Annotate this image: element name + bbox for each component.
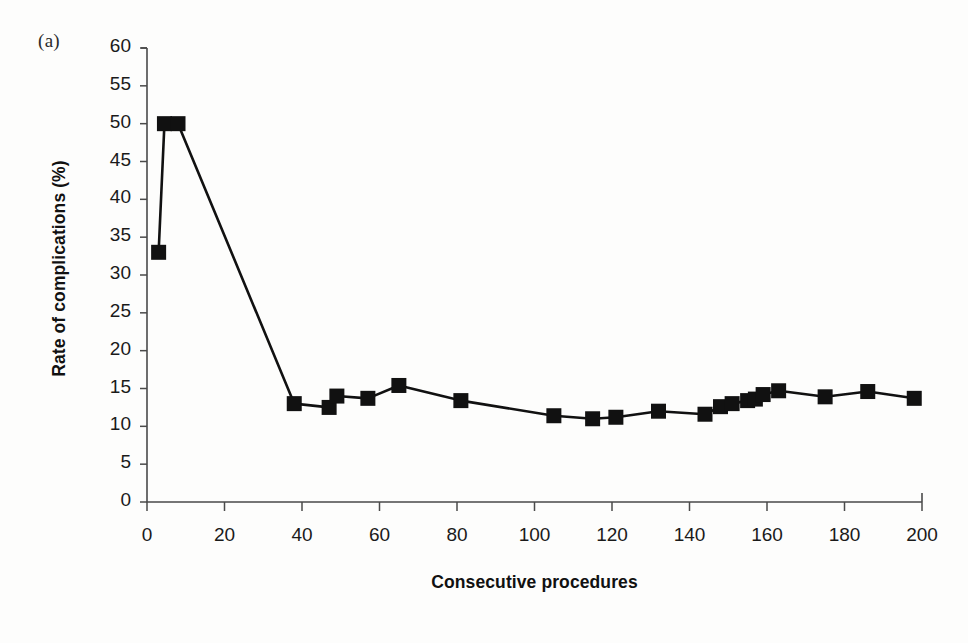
data-point-marker xyxy=(771,383,786,398)
figure-panel: (a) Rate of complications (%) Consecutiv… xyxy=(0,0,968,643)
y-tick-label: 40 xyxy=(85,186,131,208)
axis-lines xyxy=(141,48,922,502)
x-tick-label: 0 xyxy=(117,524,177,546)
y-tick-label: 5 xyxy=(85,451,131,473)
data-point-marker xyxy=(907,391,922,406)
x-tick-label: 140 xyxy=(660,524,720,546)
y-tick-label: 0 xyxy=(85,489,131,511)
chart-plot-area xyxy=(0,0,968,643)
data-point-marker xyxy=(818,389,833,404)
axis-spine xyxy=(147,48,922,502)
y-tick-label: 30 xyxy=(85,262,131,284)
y-tick-label: 55 xyxy=(85,73,131,95)
data-point-marker xyxy=(756,387,771,402)
data-point-marker xyxy=(391,378,406,393)
data-point-marker xyxy=(585,411,600,426)
y-tick-label: 45 xyxy=(85,149,131,171)
y-tick-label: 25 xyxy=(85,300,131,322)
data-point-marker xyxy=(608,410,623,425)
data-point-marker xyxy=(698,407,713,422)
x-tick-label: 40 xyxy=(272,524,332,546)
data-point-marker xyxy=(151,245,166,260)
data-point-marker xyxy=(725,396,740,411)
x-tick-label: 20 xyxy=(195,524,255,546)
x-tick-label: 100 xyxy=(505,524,565,546)
data-point-marker xyxy=(453,393,468,408)
x-tick-label: 80 xyxy=(427,524,487,546)
data-point-marker xyxy=(360,391,375,406)
axis-ticks xyxy=(140,48,922,511)
data-point-marker xyxy=(287,396,302,411)
y-tick-label: 35 xyxy=(85,224,131,246)
data-point-marker xyxy=(171,116,186,131)
series-markers xyxy=(151,116,922,426)
x-tick-label: 160 xyxy=(737,524,797,546)
data-point-marker xyxy=(546,408,561,423)
x-tick-label: 200 xyxy=(892,524,952,546)
data-point-marker xyxy=(157,116,172,131)
y-tick-label: 60 xyxy=(85,35,131,57)
x-tick-label: 180 xyxy=(815,524,875,546)
series-line xyxy=(159,124,915,419)
data-point-marker xyxy=(860,384,875,399)
y-tick-label: 50 xyxy=(85,111,131,133)
data-line xyxy=(159,124,915,419)
x-tick-label: 60 xyxy=(350,524,410,546)
x-tick-label: 120 xyxy=(582,524,642,546)
y-tick-label: 20 xyxy=(85,338,131,360)
y-tick-label: 10 xyxy=(85,413,131,435)
data-point-marker xyxy=(651,404,666,419)
y-tick-label: 15 xyxy=(85,376,131,398)
data-point-marker xyxy=(329,389,344,404)
